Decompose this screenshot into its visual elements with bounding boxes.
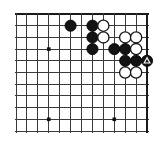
white-stone[interactable]	[131, 32, 142, 43]
white-stone[interactable]	[131, 44, 142, 55]
star-point	[47, 47, 51, 51]
star-point	[112, 118, 116, 122]
black-stone[interactable]	[120, 55, 131, 66]
white-stone[interactable]	[131, 67, 142, 78]
star-point	[47, 118, 51, 122]
go-diagram	[0, 0, 162, 149]
black-stone[interactable]	[131, 55, 142, 66]
go-board[interactable]	[0, 0, 162, 149]
black-stone[interactable]	[109, 44, 120, 55]
black-stone[interactable]	[87, 20, 98, 31]
black-stone[interactable]	[65, 20, 76, 31]
white-stone[interactable]	[120, 67, 131, 78]
white-stone[interactable]	[120, 32, 131, 43]
black-stone[interactable]	[87, 32, 98, 43]
white-stone[interactable]	[98, 32, 109, 43]
black-stone[interactable]	[87, 44, 98, 55]
black-stone[interactable]	[120, 44, 131, 55]
white-stone[interactable]	[98, 20, 109, 31]
